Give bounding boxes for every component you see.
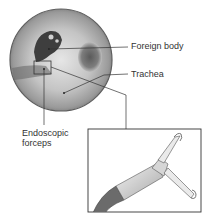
endoscope-view — [10, 9, 112, 111]
forceps-inset — [88, 129, 201, 215]
right-bronchus — [78, 42, 102, 72]
label-foreign-body: Foreign body — [131, 41, 184, 51]
label-forceps: forceps — [22, 138, 52, 148]
label-endoscopic: Endoscopic — [22, 128, 69, 138]
label-trachea: Trachea — [131, 69, 164, 79]
diagram-canvas — [0, 0, 212, 218]
